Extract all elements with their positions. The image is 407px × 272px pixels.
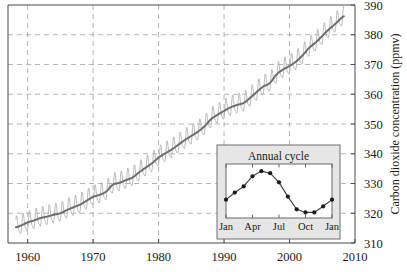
inset-marker <box>303 210 307 214</box>
annual-cycle-inset: Annual cycle JanAprJulOctJan <box>217 145 340 239</box>
inset-tick-label: Jul <box>273 221 285 232</box>
inset-tick-label: Jan <box>219 221 234 232</box>
x-tick-label: 1980 <box>146 250 171 264</box>
x-tick-label: 2000 <box>277 250 302 264</box>
y-tick-label: 320 <box>364 207 383 221</box>
y-tick-label: 330 <box>364 177 383 191</box>
inset-marker <box>286 195 290 199</box>
inset-marker <box>268 171 272 175</box>
inset-marker <box>330 198 334 202</box>
y-tick-label: 380 <box>364 28 383 42</box>
y-tick-label: 310 <box>364 237 383 251</box>
y-axis-tick-labels: 310320330340350360370380390 <box>364 0 383 251</box>
inset-tick-label: Oct <box>298 221 313 232</box>
chart-canvas: 310320330340350360370380390 196019701980… <box>0 0 407 272</box>
inset-marker <box>321 204 325 208</box>
inset-marker <box>242 184 246 188</box>
x-tick-label: 1960 <box>15 250 40 264</box>
y-axis-title: Carbon dioxide concentration (ppmv) <box>388 34 402 215</box>
x-tick-label: 1990 <box>212 250 237 264</box>
inset-tick-label: Apr <box>244 221 261 232</box>
figure-background <box>0 0 407 272</box>
inset-marker <box>277 180 281 184</box>
inset-marker <box>233 190 237 194</box>
x-tick-label: 1970 <box>81 250 106 264</box>
x-tick-label: 2010 <box>343 250 368 264</box>
inset-tick-label: Jan <box>325 221 340 232</box>
y-tick-label: 370 <box>364 58 383 72</box>
y-tick-label: 350 <box>364 118 383 132</box>
inset-plot-area <box>226 164 332 218</box>
co2-chart-figure: 310320330340350360370380390 196019701980… <box>0 0 407 272</box>
y-tick-label: 390 <box>364 0 383 13</box>
inset-marker <box>250 174 254 178</box>
y-tick-label: 340 <box>364 147 383 161</box>
inset-marker <box>295 207 299 211</box>
inset-marker <box>224 198 228 202</box>
inset-title: Annual cycle <box>248 150 309 163</box>
y-tick-label: 360 <box>364 88 383 102</box>
inset-marker <box>259 169 263 173</box>
inset-marker <box>312 210 316 214</box>
